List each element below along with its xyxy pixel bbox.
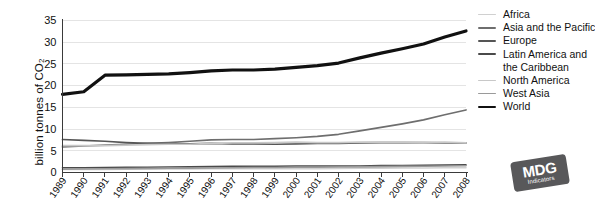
- x-axis-tick-label: 1992: [111, 175, 133, 200]
- legend-item-label: North America: [503, 74, 570, 87]
- x-axis-tick-label: 1998: [238, 175, 260, 200]
- legend-item-label: Europe: [503, 34, 537, 47]
- legend-swatch-icon: [478, 21, 498, 34]
- x-axis-tick-label: 1990: [68, 175, 90, 200]
- legend-item-label: Africa: [503, 8, 530, 21]
- legend-item[interactable]: North America: [478, 74, 594, 87]
- x-axis-tick-label: 2008: [450, 175, 472, 200]
- y-axis-tick-label: 35: [44, 14, 56, 26]
- x-axis-tick-label: 2001: [302, 175, 324, 200]
- y-axis-tick-labels: 05101520253035: [44, 14, 56, 178]
- legend-item[interactable]: Africa: [478, 8, 594, 21]
- chart-legend: AfricaAsia and the PacificEuropeLatin Am…: [478, 8, 594, 114]
- legend-swatch-icon: [478, 34, 498, 47]
- y-axis-tick-label: 25: [44, 58, 56, 70]
- y-axis-tick-label: 0: [50, 166, 56, 178]
- legend-swatch-icon: [478, 8, 498, 21]
- x-axis-tick-label: 2000: [280, 175, 302, 200]
- x-axis-tick-label: 2002: [323, 175, 345, 200]
- legend-swatch-icon: [478, 48, 498, 61]
- x-axis-tick-label: 1995: [174, 175, 196, 200]
- x-axis-tick-label: 2007: [429, 175, 451, 200]
- legend-item-label-continued: the Caribbean: [478, 61, 594, 74]
- x-axis-tick-label: 1991: [89, 175, 111, 200]
- legend-swatch-icon: [478, 100, 498, 113]
- x-axis-tick-label: 2003: [344, 175, 366, 200]
- x-axis-tick-label: 2005: [387, 175, 409, 200]
- y-axis-tick-label: 20: [44, 79, 56, 91]
- legend-item-label: Latin America and: [503, 48, 587, 61]
- x-axis-tick-label: 1999: [259, 175, 281, 200]
- gridlines: [63, 21, 467, 173]
- legend-item[interactable]: Asia and the Pacific: [478, 21, 594, 34]
- x-axis-tick-label: 2006: [408, 175, 430, 200]
- x-axis-tick-label: 2004: [365, 175, 387, 200]
- series-line-world: [63, 31, 467, 94]
- legend-item[interactable]: Latin America and: [478, 48, 594, 61]
- y-axis-tick-label: 30: [44, 36, 56, 48]
- legend-item[interactable]: West Asia: [478, 87, 594, 100]
- legend-item[interactable]: Europe: [478, 34, 594, 47]
- x-axis-tick-label: 1994: [153, 175, 175, 200]
- y-axis-tick-label: 15: [44, 101, 56, 113]
- legend-item-label: West Asia: [503, 87, 550, 100]
- x-axis-tick-label: 1989: [47, 175, 69, 200]
- legend-swatch-icon: [478, 74, 498, 87]
- x-axis-tick-labels: 1989199019911992199319941995199619971998…: [47, 175, 473, 200]
- y-axis-tick-label: 10: [44, 123, 56, 135]
- legend-item-label: Asia and the Pacific: [503, 21, 595, 34]
- legend-swatch-icon: [478, 87, 498, 100]
- data-series-lines: [63, 31, 467, 170]
- y-axis-tick-label: 5: [50, 145, 56, 157]
- legend-item[interactable]: World: [478, 100, 594, 113]
- x-axis-tick-label: 1997: [217, 175, 239, 200]
- x-axis-tick-label: 1996: [196, 175, 218, 200]
- legend-item-label: World: [503, 100, 530, 113]
- x-axis-tick-label: 1993: [132, 175, 154, 200]
